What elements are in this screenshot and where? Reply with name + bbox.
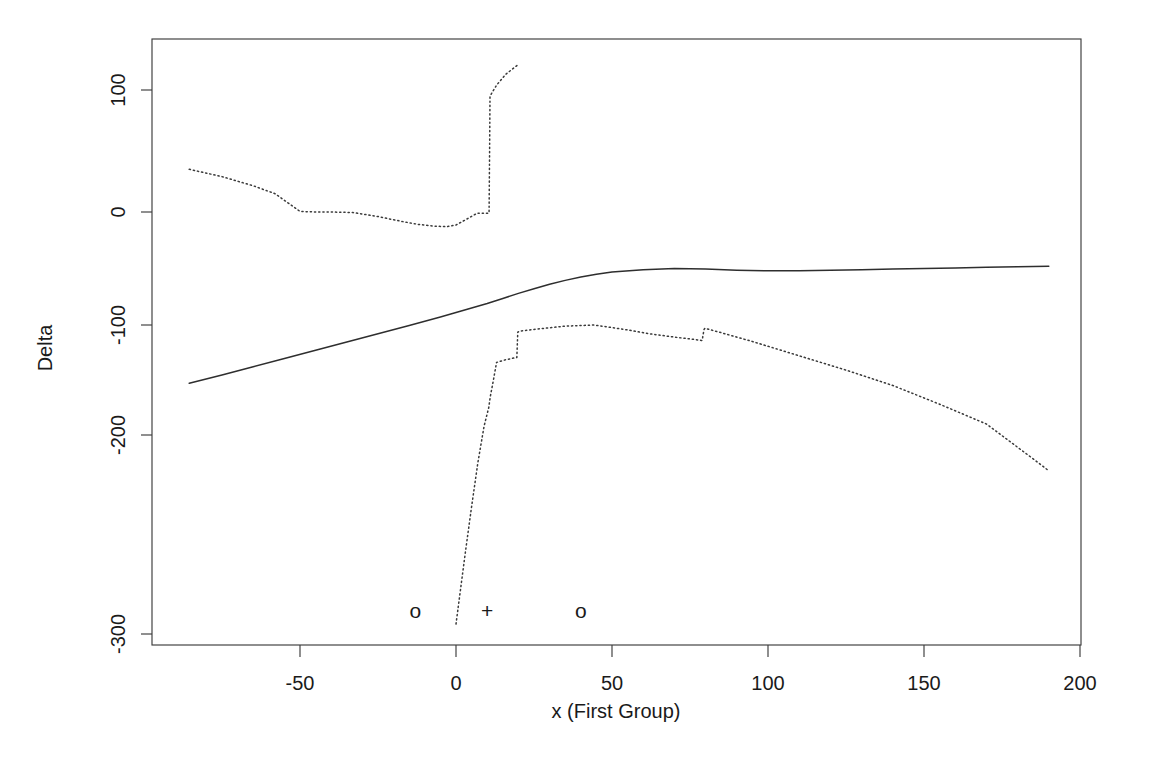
y-tick-label: -300 xyxy=(107,614,129,654)
series-line-0 xyxy=(189,266,1049,383)
plot-canvas: 1000-100-200-300 -50050100150200 o+o x (… xyxy=(0,0,1153,777)
data-series-group xyxy=(189,64,1049,624)
y-tick-label: 0 xyxy=(107,206,129,217)
x-axis-title: x (First Group) xyxy=(552,700,681,722)
observation-marker-center: + xyxy=(481,599,493,622)
series-line-2 xyxy=(456,325,1049,624)
y-tick-label: -200 xyxy=(107,415,129,455)
series-line-1 xyxy=(189,64,518,226)
x-tick-label: 0 xyxy=(450,672,461,694)
x-tick-label: -50 xyxy=(286,672,315,694)
x-tick-label: 200 xyxy=(1063,672,1096,694)
observation-markers-group: o+o xyxy=(410,599,587,622)
observation-marker-left: o xyxy=(410,599,422,622)
y-tick-label: -100 xyxy=(107,305,129,345)
chart-figure: 1000-100-200-300 -50050100150200 o+o x (… xyxy=(0,0,1153,777)
x-tick-label: 50 xyxy=(601,672,623,694)
observation-marker-right: o xyxy=(575,599,587,622)
x-tick-label: 150 xyxy=(907,672,940,694)
x-tick-label: 100 xyxy=(751,672,784,694)
y-tick-label: 100 xyxy=(107,73,129,106)
x-axis-ticks: -50050100150200 xyxy=(286,645,1097,694)
y-axis-title: Delta xyxy=(34,324,56,372)
plot-frame xyxy=(152,39,1081,645)
y-axis-ticks: 1000-100-200-300 xyxy=(107,73,152,654)
